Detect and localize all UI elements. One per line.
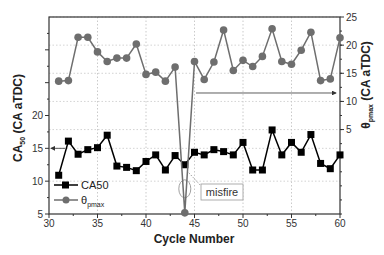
dual-axis-line-chart: 303540455055605101520510152025 misfire C… <box>0 0 384 255</box>
data-point <box>278 151 285 158</box>
data-point <box>307 28 315 36</box>
left-axis-label-sub: 50 <box>19 137 26 145</box>
x-tick-label: 55 <box>286 218 298 229</box>
data-point <box>210 58 218 66</box>
data-point <box>94 144 101 151</box>
data-point <box>191 58 199 66</box>
square-marker-icon <box>62 182 69 189</box>
data-point <box>55 77 63 85</box>
data-point <box>113 163 120 170</box>
legend-label-theta-pmax: θpmax <box>81 194 105 209</box>
data-point <box>162 77 170 85</box>
data-point <box>259 167 266 174</box>
right-tick-label: 5 <box>346 124 352 135</box>
data-point <box>220 148 227 155</box>
data-point <box>220 26 228 34</box>
x-tick-label: 50 <box>237 218 249 229</box>
data-point <box>288 60 296 68</box>
data-point <box>288 139 295 146</box>
data-point <box>84 146 91 153</box>
right-tick-label: 10 <box>346 96 358 107</box>
data-point <box>143 158 150 165</box>
left-tick-label: 20 <box>32 110 44 121</box>
data-point <box>191 149 198 156</box>
data-point <box>239 57 247 65</box>
data-point <box>269 126 276 133</box>
left-axis-label-main: CA <box>11 144 25 162</box>
legend: CA50 θpmax <box>54 179 109 209</box>
data-point <box>94 48 102 56</box>
x-tick-label: 35 <box>92 218 104 229</box>
x-tick-label: 30 <box>43 218 55 229</box>
data-point <box>171 63 179 71</box>
data-point <box>230 67 238 75</box>
data-point <box>104 132 111 139</box>
data-point <box>317 77 325 85</box>
x-tick-label: 40 <box>140 218 152 229</box>
data-point <box>317 160 324 167</box>
data-point <box>230 151 237 158</box>
left-axis-label-rest: (CA aTDC) <box>11 74 25 137</box>
series-ca50 <box>55 126 343 178</box>
left-axis-label: CA50 (CA aTDC) <box>11 74 26 162</box>
data-point <box>133 40 141 48</box>
legend-label-ca50: CA50 <box>81 179 109 191</box>
data-point <box>152 151 159 158</box>
svg-text:CA50 (CA aTDC): CA50 (CA aTDC) <box>11 74 26 162</box>
data-point <box>133 167 140 174</box>
data-point <box>297 46 305 54</box>
right-tick-label: 20 <box>346 40 358 51</box>
data-point <box>55 172 62 179</box>
data-point <box>142 71 150 79</box>
data-point <box>65 77 73 85</box>
data-point <box>210 146 217 153</box>
data-point <box>74 33 82 41</box>
right-tick-label: 25 <box>346 12 358 23</box>
legend-item-ca50: CA50 <box>54 179 109 191</box>
chart-container: 303540455055605101520510152025 misfire C… <box>0 0 384 255</box>
data-point <box>327 75 335 83</box>
data-point <box>123 164 130 171</box>
data-point <box>113 54 121 62</box>
svg-text:θpmax (CA aTDC): θpmax (CA aTDC) <box>359 41 375 129</box>
data-point <box>152 68 160 76</box>
data-point <box>181 209 189 217</box>
data-point <box>75 151 82 158</box>
data-point <box>249 167 256 174</box>
data-point <box>103 58 111 66</box>
data-point <box>249 63 257 71</box>
data-point <box>84 33 92 41</box>
data-point <box>336 34 344 42</box>
data-point <box>298 149 305 156</box>
data-point <box>65 138 72 145</box>
x-tick-label: 45 <box>189 218 201 229</box>
data-point <box>278 58 286 66</box>
misfire-label: misfire <box>206 186 238 198</box>
data-point <box>307 131 314 138</box>
data-point <box>327 165 334 172</box>
x-axis-label: Cycle Number <box>154 232 235 246</box>
x-tick-label: 60 <box>334 218 346 229</box>
data-point <box>200 76 208 84</box>
data-point <box>240 139 247 146</box>
data-point <box>201 151 208 158</box>
left-tick-label: 10 <box>32 176 44 187</box>
data-point <box>123 54 131 62</box>
left-tick-label: 5 <box>37 209 43 220</box>
right-tick-label: 15 <box>346 68 358 79</box>
circle-marker-icon <box>63 197 70 204</box>
left-tick-label: 15 <box>32 143 44 154</box>
misfire-highlight <box>179 180 191 198</box>
right-axis-label-sub: pmax <box>367 104 375 122</box>
data-point <box>259 53 267 61</box>
data-point <box>172 152 179 159</box>
data-point <box>268 25 276 33</box>
right-axis-label-rest: (CA aTDC) <box>359 41 373 104</box>
right-axis-label: θpmax (CA aTDC) <box>359 41 375 129</box>
data-point <box>162 167 169 174</box>
data-point <box>337 151 344 158</box>
